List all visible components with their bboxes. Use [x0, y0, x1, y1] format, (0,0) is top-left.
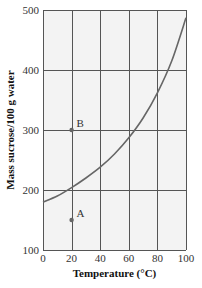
x-axis-label: Temperature (°C) — [73, 267, 157, 280]
x-tick-label: 100 — [178, 252, 195, 264]
y-tick-label: 300 — [23, 124, 40, 136]
x-tick-label: 80 — [152, 252, 164, 264]
point-label-b: B — [77, 117, 84, 129]
y-tick-label: 200 — [23, 184, 40, 196]
y-axis-ticks: 100200300400500 — [23, 4, 40, 256]
x-tick-label: 0 — [40, 252, 46, 264]
point-a — [69, 218, 73, 222]
y-axis-label: Mass sucrose/100 g water — [4, 70, 16, 189]
x-tick-label: 20 — [66, 252, 78, 264]
y-tick-label: 100 — [23, 244, 40, 256]
x-axis-ticks: 020406080100 — [40, 252, 195, 264]
y-tick-label: 500 — [23, 4, 40, 16]
solubility-chart: 100200300400500 020406080100 AB Mass suc… — [0, 0, 202, 288]
x-tick-label: 40 — [95, 252, 107, 264]
point-b — [69, 128, 73, 132]
point-label-a: A — [77, 207, 85, 219]
y-tick-label: 400 — [23, 64, 40, 76]
x-tick-label: 60 — [123, 252, 135, 264]
